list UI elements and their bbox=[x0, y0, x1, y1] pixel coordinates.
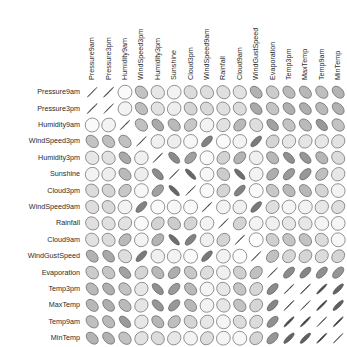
row-label-temp9am: Temp9am bbox=[48, 317, 80, 326]
row-label-rainfall: Rainfall bbox=[56, 218, 80, 227]
column-label-rainfall: Rainfall bbox=[218, 56, 227, 80]
column-label-cloud9am: Cloud9am bbox=[235, 47, 244, 80]
row-label-humidity3pm: Humidity3pm bbox=[38, 153, 80, 162]
row-label-maxtemp: MaxTemp bbox=[49, 300, 80, 309]
column-label-maxtemp: MaxTemp bbox=[300, 49, 309, 80]
column-label-temp9am: Temp9am bbox=[317, 48, 326, 80]
row-label-pressure9am: Pressure9am bbox=[37, 87, 80, 96]
row-label-evaporation: Evaporation bbox=[42, 268, 80, 277]
column-label-humidity9am: Humidity9am bbox=[120, 38, 129, 80]
column-label-cloud3pm: Cloud3pm bbox=[186, 47, 195, 80]
column-label-temp3pm: Temp3pm bbox=[284, 48, 293, 80]
row-label-windspeed9am: WindSpeed9am bbox=[29, 202, 80, 211]
row-label-humidity9am: Humidity9am bbox=[38, 120, 80, 129]
correlation-plot-figure: Pressure9amPressure3pmHumidity9amWindSpe… bbox=[0, 0, 347, 347]
column-label-pressure9am: Pressure9am bbox=[87, 37, 96, 80]
column-label-evaporation: Evaporation bbox=[268, 42, 277, 80]
column-label-mintemp: MinTemp bbox=[333, 51, 342, 80]
column-label-pressure3pm: Pressure3pm bbox=[104, 37, 113, 80]
row-label-temp3pm: Temp3pm bbox=[48, 284, 80, 293]
row-label-sunshine: Sunshine bbox=[50, 169, 80, 178]
column-label-windspeed9am: WindSpeed9am bbox=[202, 29, 211, 80]
correlation-matrix-svg: Pressure9amPressure3pmHumidity9amWindSpe… bbox=[0, 0, 347, 347]
column-label-windgustspeed: WindGustSpeed bbox=[251, 28, 260, 80]
column-label-sunshine: Sunshine bbox=[169, 50, 178, 80]
row-label-pressure3pm: Pressure3pm bbox=[37, 104, 80, 113]
column-label-humidity3pm: Humidity3pm bbox=[153, 38, 162, 80]
column-label-windspeed3pm: WindSpeed3pm bbox=[136, 29, 145, 80]
row-label-windgustspeed: WindGustSpeed bbox=[28, 251, 80, 260]
row-label-windspeed3pm: WindSpeed3pm bbox=[29, 136, 80, 145]
row-label-cloud3pm: Cloud3pm bbox=[47, 186, 80, 195]
row-label-mintemp: MinTemp bbox=[51, 333, 80, 342]
row-label-cloud9am: Cloud9am bbox=[47, 235, 80, 244]
